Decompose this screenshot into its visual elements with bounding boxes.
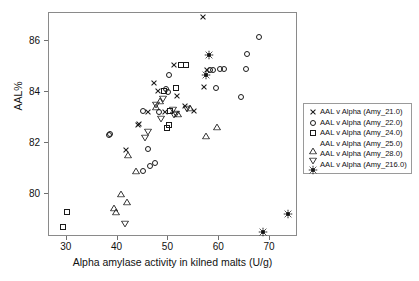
- marker-circle-icon: [140, 168, 146, 174]
- marker-circle-icon: [217, 66, 223, 72]
- marker-square-icon: [166, 122, 172, 128]
- y-tick: [44, 91, 48, 92]
- marker-triangle-up-icon: [202, 125, 210, 132]
- marker-cross-icon: [200, 83, 207, 90]
- y-tick: [44, 193, 48, 194]
- y-tick-label: 82: [29, 136, 40, 147]
- marker-triangle-up-icon: [117, 184, 125, 191]
- legend-item[interactable]: AAL v Alpha (Amy_28.0): [307, 149, 407, 160]
- x-tick-label: 30: [60, 241, 71, 252]
- marker-triangle-up-icon: [132, 161, 140, 168]
- marker-triangle-up-icon: [124, 144, 132, 151]
- legend-marker: [307, 128, 318, 138]
- scatter-data-layer: [49, 13, 296, 235]
- x-tick: [167, 236, 168, 240]
- legend: AAL v Alpha (Amy_21.0)AAL v Alpha (Amy_2…: [303, 103, 412, 174]
- x-tick: [269, 236, 270, 240]
- marker-triangle-down-icon: [183, 99, 191, 106]
- marker-triangle-down-icon: [159, 88, 167, 95]
- legend-label: AAL v Alpha (Amy_22.0): [320, 118, 402, 128]
- marker-circle-icon: [107, 131, 113, 137]
- y-axis-title: AAL%: [12, 66, 24, 126]
- marker-triangle-up-icon: [112, 202, 120, 209]
- x-tick-label: 60: [213, 241, 224, 252]
- marker-circle-icon: [147, 163, 153, 169]
- legend-label: AAL v Alpha (Amy_216.0): [320, 160, 407, 170]
- marker-filled-square-icon: [308, 160, 317, 169]
- marker-circle-icon: [140, 108, 146, 114]
- y-tick-label: 86: [29, 35, 40, 46]
- marker-triangle-down-icon: [144, 122, 152, 129]
- marker-circle-icon: [243, 66, 249, 72]
- y-tick-label: 84: [29, 85, 40, 96]
- marker-cross-icon: [309, 109, 316, 116]
- marker-circle-icon: [244, 51, 250, 57]
- x-tick: [117, 236, 118, 240]
- marker-circle-icon: [310, 120, 316, 126]
- legend-marker: [307, 149, 318, 159]
- plot-frame: [48, 12, 297, 236]
- marker-circle-icon: [145, 146, 151, 152]
- legend-label: AAL v Alpha (Amy_21.0): [320, 107, 402, 117]
- legend-marker: [307, 118, 318, 128]
- x-tick-label: 40: [111, 241, 122, 252]
- marker-filled-square-icon: [284, 205, 293, 214]
- marker-triangle-down-icon: [157, 109, 165, 116]
- legend-marker: [307, 160, 318, 170]
- marker-cross-icon: [150, 80, 157, 87]
- marker-circle-icon: [166, 72, 172, 78]
- legend-item[interactable]: AAL v Alpha (Amy_24.0): [307, 128, 407, 139]
- marker-square-icon: [60, 224, 66, 230]
- marker-square-icon: [178, 62, 184, 68]
- x-tick: [218, 236, 219, 240]
- chart-page: 3040506070 80828486 Alpha amylase activi…: [0, 0, 419, 281]
- legend-item[interactable]: AAL v Alpha (Amy_216.0): [307, 160, 407, 171]
- legend-item[interactable]: AAL v Alpha (Amy_22.0): [307, 118, 407, 129]
- y-tick: [44, 40, 48, 41]
- legend-label: AAL v Alpha (Amy_24.0): [320, 128, 402, 138]
- legend-item[interactable]: AAL v Alpha (Amy_25.0): [307, 139, 407, 150]
- marker-circle-icon: [256, 34, 262, 40]
- legend-label: AAL v Alpha (Amy_28.0): [320, 149, 402, 159]
- marker-filled-square-icon: [202, 66, 211, 75]
- marker-cross-icon: [173, 92, 180, 99]
- marker-filled-square-icon: [258, 222, 267, 231]
- y-tick-label: 80: [29, 187, 40, 198]
- x-axis-title: Alpha amylase activity in kilned malts (…: [48, 256, 297, 268]
- marker-circle-icon: [213, 85, 219, 91]
- marker-triangle-up-icon: [309, 140, 317, 147]
- marker-triangle-down-icon: [309, 151, 317, 158]
- marker-triangle-down-icon: [121, 213, 129, 220]
- legend-item[interactable]: AAL v Alpha (Amy_21.0): [307, 107, 407, 118]
- marker-triangle-up-icon: [213, 116, 221, 123]
- marker-circle-icon: [238, 94, 244, 100]
- marker-square-icon: [310, 130, 316, 136]
- legend-marker: [307, 139, 318, 149]
- x-tick: [66, 236, 67, 240]
- marker-square-icon: [64, 209, 70, 215]
- marker-cross-icon: [145, 109, 152, 116]
- x-tick-label: 50: [162, 241, 173, 252]
- marker-cross-icon: [199, 13, 206, 20]
- y-tick: [44, 142, 48, 143]
- marker-triangle-up-icon: [123, 192, 131, 199]
- x-tick-label: 70: [263, 241, 274, 252]
- legend-label: AAL v Alpha (Amy_25.0): [320, 139, 402, 149]
- marker-filled-square-icon: [204, 45, 213, 54]
- marker-cross-icon: [170, 62, 177, 69]
- marker-triangle-down-icon: [170, 105, 178, 112]
- legend-marker: [307, 107, 318, 117]
- marker-square-icon: [173, 85, 179, 91]
